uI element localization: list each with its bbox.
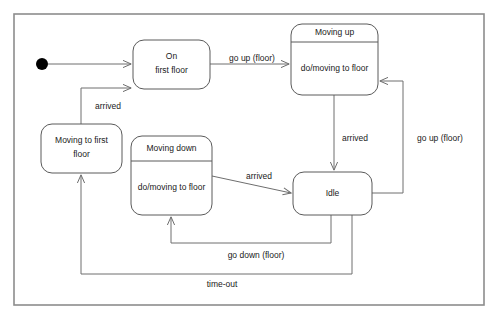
state-idle-label: Idle <box>326 188 340 198</box>
initial-pseudostate <box>36 58 48 70</box>
transition-label-go-up-floor-2: go up (floor) <box>417 133 463 143</box>
state-moving-down[interactable]: Moving down do/moving to floor <box>131 136 212 215</box>
state-diagram-canvas: On first floor Moving up do/moving to fl… <box>0 0 502 317</box>
state-on-first-floor-label-line2: first floor <box>155 65 188 75</box>
state-moving-to-first-floor-label-line2: floor <box>73 149 90 159</box>
edge-idle-to-moving-down <box>171 215 331 243</box>
state-moving-down-activity: do/moving to floor <box>138 182 206 192</box>
transition-label-go-up-floor-1: go up (floor) <box>229 53 275 63</box>
state-moving-down-label: Moving down <box>146 143 196 153</box>
state-idle[interactable]: Idle <box>293 172 372 215</box>
state-moving-up-label: Moving up <box>315 27 354 37</box>
edge-idle-to-moving-up <box>372 81 403 193</box>
transition-label-arrived-first-floor: arrived <box>95 101 121 111</box>
state-on-first-floor-label-line1: On <box>166 51 178 61</box>
state-moving-up-activity: do/moving to floor <box>301 63 369 73</box>
transition-label-go-down-floor: go down (floor) <box>228 250 285 260</box>
state-on-first-floor[interactable]: On first floor <box>133 40 210 89</box>
transition-label-arrived-moving-up: arrived <box>342 133 368 143</box>
transition-label-time-out: time-out <box>207 279 238 289</box>
state-moving-to-first-floor[interactable]: Moving to first floor <box>41 124 122 173</box>
transition-label-arrived-moving-down: arrived <box>246 171 272 181</box>
state-moving-to-first-floor-label-line1: Moving to first <box>55 135 109 145</box>
diagram-svg: On first floor Moving up do/moving to fl… <box>0 0 502 317</box>
state-moving-up[interactable]: Moving up do/moving to floor <box>291 24 378 95</box>
